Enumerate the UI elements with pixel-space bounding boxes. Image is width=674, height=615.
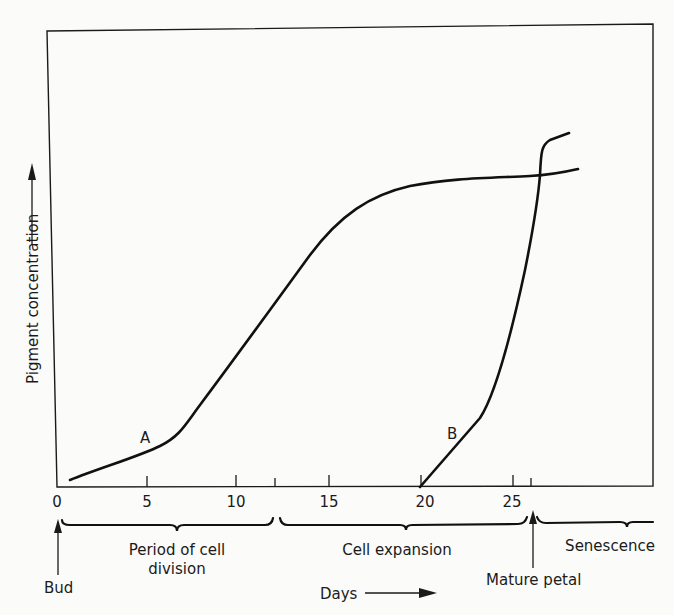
x-tick-label-0: 0 — [52, 493, 62, 511]
x-axis-label: Days — [320, 586, 357, 603]
x-tick-label-15: 15 — [319, 493, 338, 511]
phase-braces — [62, 517, 653, 531]
x-tick-label-20: 20 — [415, 493, 434, 511]
brace-cell-division — [62, 518, 273, 531]
plot-frame — [47, 24, 653, 487]
curve-b — [420, 133, 569, 487]
phase-label-cell-division: Period of cell division — [129, 541, 226, 579]
mature-petal-label: Mature petal — [486, 572, 581, 589]
chart-canvas — [0, 0, 674, 615]
x-tick-label-10: 10 — [226, 493, 245, 511]
x-axis-ticks — [147, 475, 531, 487]
bud-label: Bud — [44, 580, 73, 597]
brace-cell-expansion — [280, 517, 527, 530]
phase-label-cell-division-line2: division — [129, 560, 226, 579]
bud-arrow-icon — [54, 519, 62, 575]
phase-label-cell-division-line1: Period of cell — [129, 541, 226, 560]
mature-petal-arrow-icon — [529, 510, 537, 568]
brace-senescence — [537, 517, 653, 527]
phase-label-cell-expansion: Cell expansion — [342, 541, 452, 560]
curve-b-label: B — [447, 426, 457, 443]
y-axis-label: Pigment concentration — [24, 214, 42, 384]
curve-a-label: A — [140, 430, 150, 447]
x-tick-label-25: 25 — [502, 493, 521, 511]
days-arrow-icon — [365, 588, 437, 598]
phase-label-senescence: Senescence — [565, 537, 655, 556]
x-tick-label-5: 5 — [142, 493, 152, 511]
